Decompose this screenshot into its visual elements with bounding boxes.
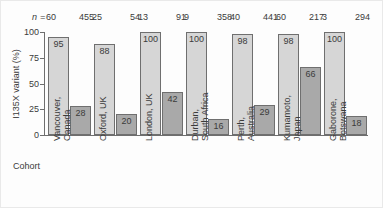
n-value-series1: 3 (322, 12, 327, 25)
bar-value-label: 100 (143, 33, 158, 45)
n-value-pair: 9358 (184, 12, 232, 25)
y-tick: 75 (44, 58, 45, 59)
cohort-label-line1: Durban, (190, 92, 200, 141)
y-tick-label: 100 (24, 27, 39, 37)
bar-dark: 66 (300, 67, 321, 135)
n-value-series2: 294 (355, 12, 370, 25)
cohort-label-line1: Vancouver, (52, 97, 62, 141)
bar-value-label: 95 (53, 38, 63, 50)
bar-dark: 29 (254, 105, 275, 135)
y-tick-mark (40, 109, 44, 110)
cohort-label: Kumamoto,Japan (282, 95, 295, 141)
cohort-label-line1: London, UK (144, 93, 154, 141)
bar-value-label: 100 (189, 33, 204, 45)
n-value-series1: 13 (138, 12, 148, 25)
bar-value-label: 88 (99, 45, 109, 57)
bar-dark: 42 (162, 92, 183, 135)
y-tick: 25 (44, 109, 45, 110)
cohort-label-line2: South Africa (200, 92, 210, 141)
cohort-label: Gaborone,Botswana (328, 98, 341, 141)
cohort-label-line1: Perth, (236, 106, 246, 141)
cohort-axis-title: Cohort (13, 161, 40, 171)
y-tick-label: 25 (29, 104, 39, 114)
cohort-label: Vancouver,Canada (52, 97, 65, 141)
cohort-label-line2: Australia (246, 106, 256, 141)
y-tick-mark (40, 58, 44, 59)
cohort-label-line1: Oxford, UK (98, 96, 108, 141)
n-value-pair: 60455 (46, 12, 94, 25)
n-value-pair: 2554 (92, 12, 140, 25)
bar-dark: 28 (70, 106, 91, 135)
bar-value-label: 20 (121, 115, 131, 127)
n-value-series1: 9 (184, 12, 189, 25)
cohort-label: Perth,Australia (236, 106, 249, 141)
bar-dark: 20 (116, 114, 137, 135)
n-value-series1: 40 (230, 12, 240, 25)
n-value-pair: 1391 (138, 12, 186, 25)
n-value-pair: 60217 (276, 12, 324, 25)
cohort-label-line2: Japan (292, 95, 302, 141)
y-tick: 100 (44, 32, 45, 33)
n-value-series1: 60 (276, 12, 286, 25)
bar-dark: 16 (208, 119, 229, 135)
n-value-series1: 60 (46, 12, 56, 25)
bar-value-label: 66 (305, 68, 315, 80)
bar-value-label: 98 (283, 35, 293, 47)
y-tick-mark (40, 32, 44, 33)
bar-value-label: 28 (75, 107, 85, 119)
bar-value-label: 100 (327, 33, 342, 45)
y-tick-label: 75 (29, 53, 39, 63)
cohort-label-line2: Canada (62, 97, 72, 141)
cohort-label-line2: Botswana (338, 98, 348, 141)
n-value-pair: 3294 (322, 12, 370, 25)
bar-value-label: 16 (213, 120, 223, 132)
bar-dark: 18 (346, 116, 367, 135)
bar-value-label: 98 (237, 35, 247, 47)
bar-value-label: 18 (351, 117, 361, 129)
bar-value-label: 42 (167, 93, 177, 105)
bar-value-label: 29 (259, 106, 269, 118)
y-tick-mark (40, 84, 44, 85)
chart-figure: n = 6045525541391935840441602173294 I135… (0, 0, 383, 208)
y-tick-label: 0 (34, 130, 39, 140)
cohort-label-line1: Kumamoto, (282, 95, 292, 141)
y-tick-label: 50 (29, 79, 39, 89)
y-tick: 50 (44, 84, 45, 85)
cohort-label-line1: Gaborone, (328, 98, 338, 141)
sample-size-row: n = 6045525541391935840441602173294 (1, 12, 383, 25)
cohort-label: Oxford, UK (98, 96, 111, 141)
cohort-label: London, UK (144, 93, 157, 141)
y-tick: 0 (44, 135, 45, 136)
cohort-label: Durban,South Africa (190, 92, 203, 141)
y-tick-mark (40, 135, 44, 136)
n-value-series1: 25 (92, 12, 102, 25)
y-axis-label: I135X variant (%) (10, 32, 23, 136)
n-prefix-label: n = (32, 12, 45, 22)
n-value-pair: 40441 (230, 12, 278, 25)
